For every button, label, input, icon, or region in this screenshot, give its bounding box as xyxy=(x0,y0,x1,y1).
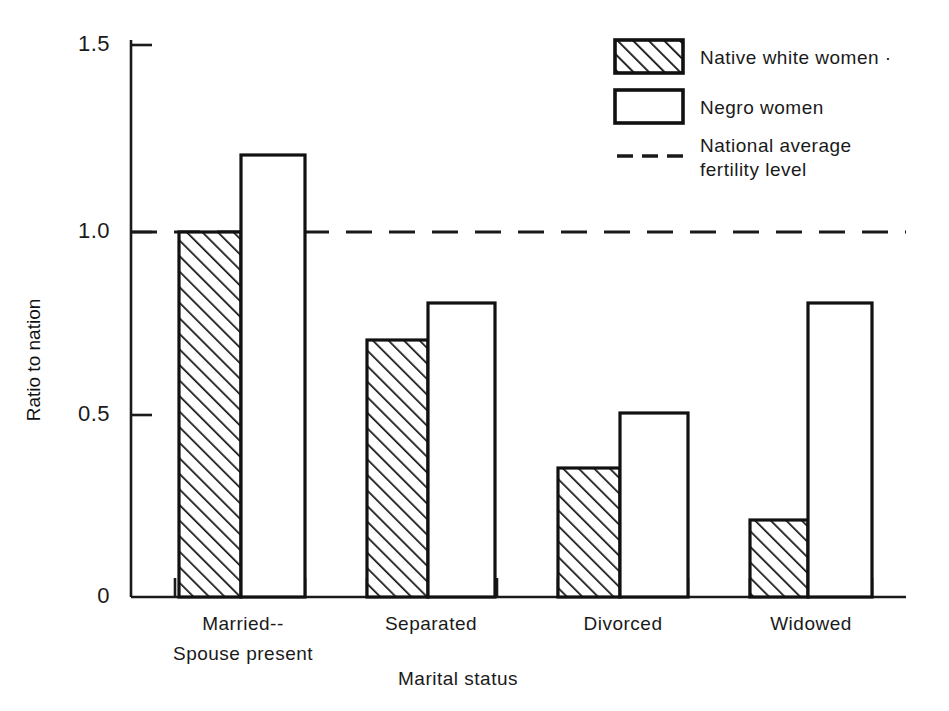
open-swatch xyxy=(615,90,683,123)
bar-native-white-divorced xyxy=(558,468,620,597)
bar-native-white-separated xyxy=(367,340,428,597)
bar-native-white-married xyxy=(179,232,241,597)
x-category-label-married-line2: Spouse present xyxy=(165,643,321,665)
hatched-swatch xyxy=(615,40,683,73)
bar-negro-separated xyxy=(428,303,495,597)
fertility-ratio-bar-chart: 1.5 1.0 0.5 0 Ratio to nation Married-- … xyxy=(0,0,949,711)
y-axis-title-text: Ratio to nation xyxy=(23,299,45,422)
y-tick-label-1-5: 1.5 xyxy=(58,31,110,57)
y-tick-label-1-0: 1.0 xyxy=(58,218,110,244)
y-tick-label-0-5: 0.5 xyxy=(58,401,110,427)
x-category-label-married-line1: Married-- xyxy=(165,613,321,635)
legend-label-negro-women: Negro women xyxy=(700,96,824,120)
y-axis-ticks xyxy=(131,45,152,415)
bar-native-white-widowed xyxy=(750,520,808,597)
bar-negro-divorced xyxy=(620,413,688,597)
x-axis-title: Marital status xyxy=(398,668,518,690)
x-category-label-divorced: Divorced xyxy=(545,613,701,635)
legend-label-national-average: National average fertility level xyxy=(700,134,852,182)
y-axis-title: Ratio to nation xyxy=(14,250,54,470)
bar-negro-widowed xyxy=(808,303,872,597)
bar-negro-married xyxy=(241,155,305,597)
x-category-label-married: Married-- Spouse present xyxy=(165,613,321,665)
legend-label-national-average-line1: National average xyxy=(700,134,852,158)
legend-label-native-white-women: Native white women · xyxy=(700,46,892,70)
legend-label-national-average-line2: fertility level xyxy=(700,158,852,182)
x-category-label-widowed: Widowed xyxy=(733,613,889,635)
y-tick-label-0: 0 xyxy=(58,583,110,609)
x-category-label-separated: Separated xyxy=(353,613,509,635)
